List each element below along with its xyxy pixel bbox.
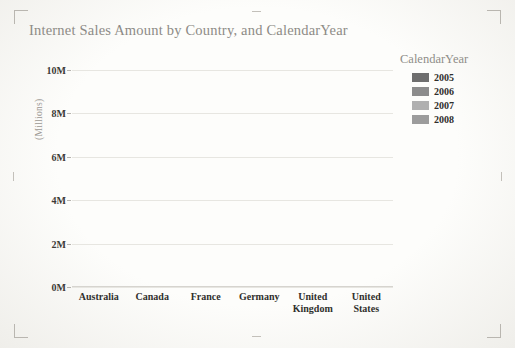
y-axis-label: 10M (47, 65, 66, 76)
legend-item-2008[interactable]: 2008 (412, 114, 512, 125)
crop-mark-bottom-left (14, 324, 28, 338)
legend-swatch-2005 (412, 73, 429, 82)
bar-group: AustraliaCanadaFranceGermanyUnitedKingdo… (72, 70, 393, 287)
bar-slot: France (179, 70, 233, 287)
gridline (72, 287, 393, 288)
bar-slot: Canada (126, 70, 180, 287)
bar-slot: UnitedKingdom (286, 70, 340, 287)
registration-tick-right (501, 172, 502, 181)
registration-tick-bottom (252, 336, 261, 337)
x-axis-label-line: Canada (136, 291, 169, 302)
x-axis-label-line: France (191, 291, 221, 302)
y-axis-label: 2M (52, 238, 66, 249)
legend-swatch-2008 (412, 115, 429, 124)
y-axis-tick (67, 70, 71, 71)
legend-item-2007[interactable]: 2007 (412, 100, 512, 111)
crop-mark-top-right (487, 10, 501, 24)
legend-title: CalendarYear (400, 52, 512, 67)
x-axis-label-line: United (298, 291, 327, 302)
x-axis-label-line: Germany (239, 291, 280, 302)
legend-label: 2008 (434, 114, 454, 125)
y-axis-tick (67, 200, 71, 201)
y-axis-tick (67, 244, 71, 245)
legend-label: 2005 (434, 72, 454, 83)
x-axis-label: UnitedStates (335, 291, 397, 314)
y-axis-label: 6M (52, 151, 66, 162)
bar-slot: UnitedStates (340, 70, 394, 287)
y-axis-tick (67, 113, 71, 114)
plot-area: 0M2M4M6M8M10M AustraliaCanadaFranceGerma… (72, 70, 393, 287)
legend-swatch-2006 (412, 87, 429, 96)
legend: CalendarYear 2005200620072008 (400, 52, 512, 128)
crop-mark-bottom-right (487, 324, 501, 338)
bar-slot: Germany (233, 70, 287, 287)
y-axis-label: 8M (52, 108, 66, 119)
x-axis-label-line: States (353, 303, 379, 314)
y-axis-label: 4M (52, 195, 66, 206)
registration-tick-top (252, 11, 261, 12)
legend-label: 2006 (434, 86, 454, 97)
legend-label: 2007 (434, 100, 454, 111)
bar-slot: Australia (72, 70, 126, 287)
legend-items: 2005200620072008 (400, 72, 512, 125)
legend-item-2005[interactable]: 2005 (412, 72, 512, 83)
chart-page: Internet Sales Amount by Country, and Ca… (0, 0, 515, 348)
y-axis-title: (Millions) (34, 98, 44, 140)
chart-title: Internet Sales Amount by Country, and Ca… (29, 22, 348, 39)
registration-tick-left (13, 172, 14, 181)
crop-mark-top-left (14, 10, 28, 24)
x-axis-label-line: Kingdom (293, 303, 333, 314)
x-axis-label-line: United (352, 291, 381, 302)
y-axis-tick (67, 287, 71, 288)
y-axis-tick (67, 157, 71, 158)
legend-swatch-2007 (412, 101, 429, 110)
legend-item-2006[interactable]: 2006 (412, 86, 512, 97)
y-axis-label: 0M (52, 282, 66, 293)
x-axis-label-line: Australia (79, 291, 119, 302)
